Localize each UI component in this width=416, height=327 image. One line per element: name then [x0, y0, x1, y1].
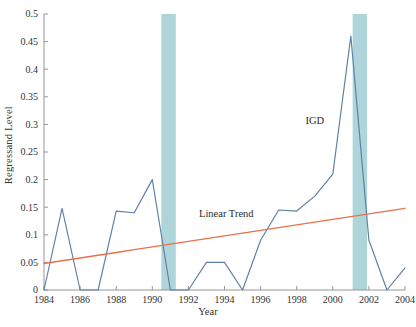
chart-figure: Regressand Level Year 00.050.10.150.20.2… [0, 0, 416, 327]
y-axis-tick-label: 0.2 [26, 174, 39, 185]
x-axis-tick-label: 1994 [215, 294, 235, 305]
y-axis-tick-label: 0.4 [26, 64, 39, 75]
x-axis-tick-label: 1990 [142, 294, 162, 305]
plot-area: 00.050.10.150.20.250.30.350.40.450.51984… [0, 0, 416, 327]
y-axis-tick-label: 0.05 [21, 257, 39, 268]
y-axis-tick-label: 0.1 [26, 229, 39, 240]
data-series-group [44, 36, 405, 290]
y-axis-tick-label: 0.35 [21, 91, 39, 102]
annotation-igd: IGD [305, 115, 324, 126]
annotation-linear-trend: Linear Trend [199, 208, 254, 219]
x-axis-tick-label: 1988 [106, 294, 126, 305]
y-axis-tick-label: 0.5 [26, 8, 39, 19]
x-axis-tick-label: 1992 [178, 294, 198, 305]
y-axis-tick-label: 0.15 [21, 202, 39, 213]
x-axis-tick-label: 1986 [70, 294, 90, 305]
x-axis-tick-label: 2002 [359, 294, 379, 305]
shaded-band-2 [353, 14, 367, 290]
x-axis-tick-label: 1998 [287, 294, 307, 305]
y-axis-tick-label: 0.3 [26, 119, 39, 130]
y-axis-tick-label: 0.45 [21, 36, 39, 47]
series-line-igd [44, 36, 405, 290]
x-axis-tick-label: 1984 [34, 294, 54, 305]
y-axis-tick-label: 0.25 [21, 146, 39, 157]
x-axis-tick-label: 1996 [251, 294, 271, 305]
x-axis-tick-label: 2000 [323, 294, 343, 305]
x-axis-tick-label: 2004 [395, 294, 415, 305]
